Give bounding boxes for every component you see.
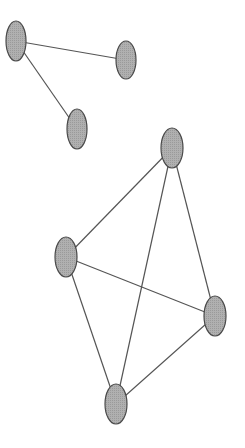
- graph-node-n1: [6, 21, 26, 61]
- graph-node-n7: [105, 384, 127, 424]
- nodes-layer: [6, 21, 226, 424]
- graph-node-n3: [67, 109, 87, 149]
- graph-node-n6: [204, 296, 226, 336]
- edge-n5-n7: [66, 257, 116, 404]
- edge-n5-n6: [66, 257, 215, 316]
- graph-node-n5: [55, 237, 77, 277]
- graph-node-n2: [116, 41, 136, 79]
- edges-layer: [16, 41, 215, 404]
- edge-n1-n3: [16, 41, 77, 129]
- edge-n7-n6: [116, 316, 215, 404]
- graph-canvas: [0, 0, 245, 448]
- edge-n4-n7: [116, 148, 172, 404]
- graph-node-n4: [161, 128, 183, 168]
- edge-n1-n2: [16, 41, 126, 60]
- edge-n4-n5: [66, 148, 172, 257]
- edge-n4-n6: [172, 148, 215, 316]
